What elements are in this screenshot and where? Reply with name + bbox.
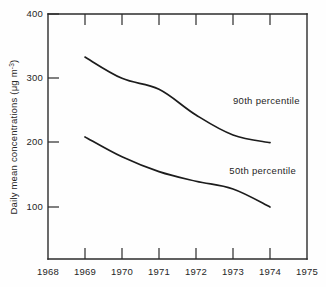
y-axis-title-main: Daily mean concentrations (μg m xyxy=(8,69,19,214)
y-axis-ticks xyxy=(48,14,59,207)
x-tick-label-1973: 1973 xyxy=(222,266,244,277)
x-tick-label-1969: 1969 xyxy=(74,266,96,277)
x-tick-label-1974: 1974 xyxy=(259,266,281,277)
x-axis-ticks-bottom xyxy=(85,248,270,259)
x-axis-ticks-top xyxy=(85,14,270,25)
y-axis-title-tail: ) xyxy=(8,60,19,63)
y-tick-label-300: 300 xyxy=(27,72,43,83)
y-tick-label-200: 200 xyxy=(27,136,43,147)
x-tick-label-1972: 1972 xyxy=(185,266,207,277)
chart-figure: 100 200 300 400 1968 1969 1970 1971 1972… xyxy=(0,0,326,287)
series-annotation-90th-percentile: 90th percentile xyxy=(233,95,300,106)
x-tick-label-1975: 1975 xyxy=(296,266,318,277)
series-annotation-50th-percentile: 50th percentile xyxy=(229,165,296,176)
y-tick-label-400: 400 xyxy=(27,8,43,19)
x-tick-label-1970: 1970 xyxy=(111,266,133,277)
line-chart-canvas: 100 200 300 400 1968 1969 1970 1971 1972… xyxy=(0,0,326,287)
y-axis-title-group: Daily mean concentrations (μg m-3) xyxy=(8,60,20,215)
x-tick-label-1968: 1968 xyxy=(37,266,59,277)
axis-frame xyxy=(48,14,307,259)
y-tick-label-100: 100 xyxy=(27,201,43,212)
y-axis-title: Daily mean concentrations (μg m-3) xyxy=(8,60,20,215)
x-tick-label-1971: 1971 xyxy=(148,266,170,277)
